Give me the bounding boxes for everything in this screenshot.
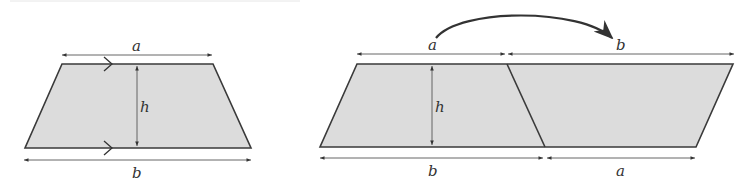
bottom-a-label: a (616, 162, 625, 180)
height-label-right: h (435, 98, 445, 116)
trapezium-figure: h a b (24, 37, 251, 182)
trapezium-shape (25, 64, 251, 148)
top-a-label: a (428, 36, 437, 54)
height-label: h (140, 98, 150, 116)
top-b-label: b (616, 36, 626, 54)
bottom-side-label: b (132, 164, 142, 182)
parallelogram-figure: h a b b a (320, 16, 734, 181)
bottom-b-label: b (428, 162, 438, 180)
diagram-canvas: h a b h a b b a (0, 0, 752, 185)
curved-arrow-icon (436, 16, 612, 39)
top-side-label: a (132, 37, 141, 55)
